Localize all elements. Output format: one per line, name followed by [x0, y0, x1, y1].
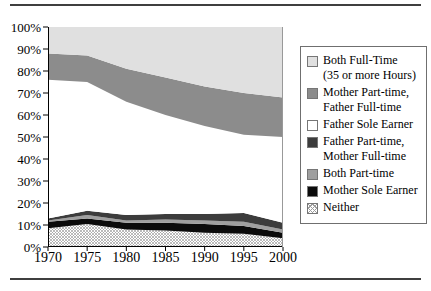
legend-label: Mother Part-time,Father Full-time [323, 85, 409, 115]
y-tick-label-20: 20% [17, 197, 41, 210]
legend-item-mother-part-time-father-full-time: Mother Part-time,Father Full-time [307, 85, 421, 115]
legend-label-line: Father Part-time, [323, 134, 406, 149]
legend-item-neither: Neither [307, 200, 421, 215]
legend-label-line: Mother Part-time, [323, 85, 409, 100]
legend-label: Both Full-Time(35 or more Hours) [323, 53, 416, 83]
x-tick-label-1980: 1980 [112, 251, 140, 265]
legend-label: Mother Sole Earner [323, 183, 418, 198]
legend-label: Neither [323, 200, 359, 215]
y-tick-label-30: 30% [17, 175, 41, 188]
legend-label-line: Mother Full-time [323, 149, 406, 164]
legend-box: Both Full-Time(35 or more Hours)Mother P… [300, 46, 427, 224]
legend-label-line: (35 or more Hours) [323, 68, 416, 83]
y-tick-label-10: 10% [17, 219, 41, 232]
x-tick-label-1990: 1990 [191, 251, 219, 265]
stacked-area-plot [48, 27, 283, 247]
legend-label-line: Father Sole Earner [323, 117, 413, 132]
legend-item-both-full-time-35-or-more-hours: Both Full-Time(35 or more Hours) [307, 53, 421, 83]
y-tick-label-50: 50% [17, 131, 41, 144]
y-tick-label-100: 100% [11, 21, 41, 34]
x-tick-label-1985: 1985 [152, 251, 180, 265]
legend-label: Father Sole Earner [323, 117, 413, 132]
legend-label-line: Both Part-time [323, 166, 394, 181]
legend-swatch-icon [307, 56, 318, 67]
bottom-rule [10, 278, 421, 280]
y-tick-label-70: 70% [17, 87, 41, 100]
x-tick-label-1975: 1975 [73, 251, 101, 265]
legend-swatch-icon [307, 203, 318, 214]
legend-label-line: Neither [323, 200, 359, 215]
legend-label: Father Part-time,Mother Full-time [323, 134, 406, 164]
figure-employment-arrangements-chart: 0%10%20%30%40%50%60%70%80%90%100% 197019… [0, 0, 431, 291]
y-tick-label-40: 40% [17, 153, 41, 166]
x-tick-label-2000: 2000 [269, 251, 297, 265]
legend-label-line: Both Full-Time [323, 53, 416, 68]
top-rule [10, 4, 421, 6]
legend-label-line: Mother Sole Earner [323, 183, 418, 198]
y-tick-label-60: 60% [17, 109, 41, 122]
y-tick-label-90: 90% [17, 43, 41, 56]
legend-swatch-icon [307, 88, 318, 99]
area-series-group [48, 27, 283, 247]
y-axis: 0%10%20%30%40%50%60%70%80%90%100% [0, 27, 41, 247]
y-tick-label-80: 80% [17, 65, 41, 78]
legend-swatch-icon [307, 137, 318, 148]
legend-swatch-icon [307, 186, 318, 197]
legend-item-father-sole-earner: Father Sole Earner [307, 117, 421, 132]
legend-item-father-part-time-mother-full-time: Father Part-time,Mother Full-time [307, 134, 421, 164]
legend-label-line: Father Full-time [323, 100, 409, 115]
legend-item-mother-sole-earner: Mother Sole Earner [307, 183, 421, 198]
legend-label: Both Part-time [323, 166, 394, 181]
legend-item-both-part-time: Both Part-time [307, 166, 421, 181]
x-tick-label-1995: 1995 [230, 251, 258, 265]
legend-swatch-icon [307, 169, 318, 180]
x-axis: 1970197519801985199019952000 [48, 251, 283, 269]
x-tick-label-1970: 1970 [34, 251, 62, 265]
legend-swatch-icon [307, 120, 318, 131]
